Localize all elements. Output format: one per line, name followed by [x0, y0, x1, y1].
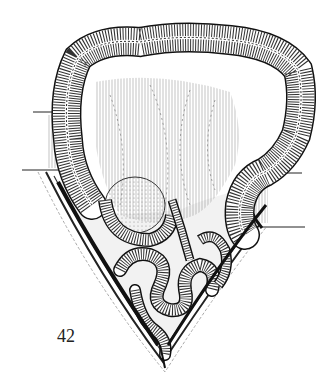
figure-number-label: 42	[57, 326, 75, 347]
surgical-illustration	[0, 0, 328, 390]
